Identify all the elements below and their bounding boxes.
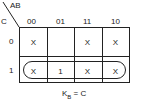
col-header-01: 01	[56, 18, 65, 26]
grid-divider	[19, 56, 130, 57]
col-header-11: 11	[83, 18, 91, 26]
row-header-0: 0	[9, 38, 13, 46]
corner-label-c: C	[1, 18, 7, 26]
cell-c0-ab10: X	[102, 38, 129, 47]
row-header-1: 1	[9, 67, 13, 75]
cell-c0-ab11: X	[74, 38, 101, 47]
col-header-00: 00	[27, 18, 36, 26]
corner-label-ab: AB	[10, 2, 21, 10]
grouping-loop	[23, 61, 126, 79]
cell-c0-ab00: X	[20, 38, 47, 47]
caption: KB = C	[62, 90, 86, 101]
caption-expression: = C	[71, 89, 86, 98]
col-header-10: 10	[111, 18, 120, 26]
